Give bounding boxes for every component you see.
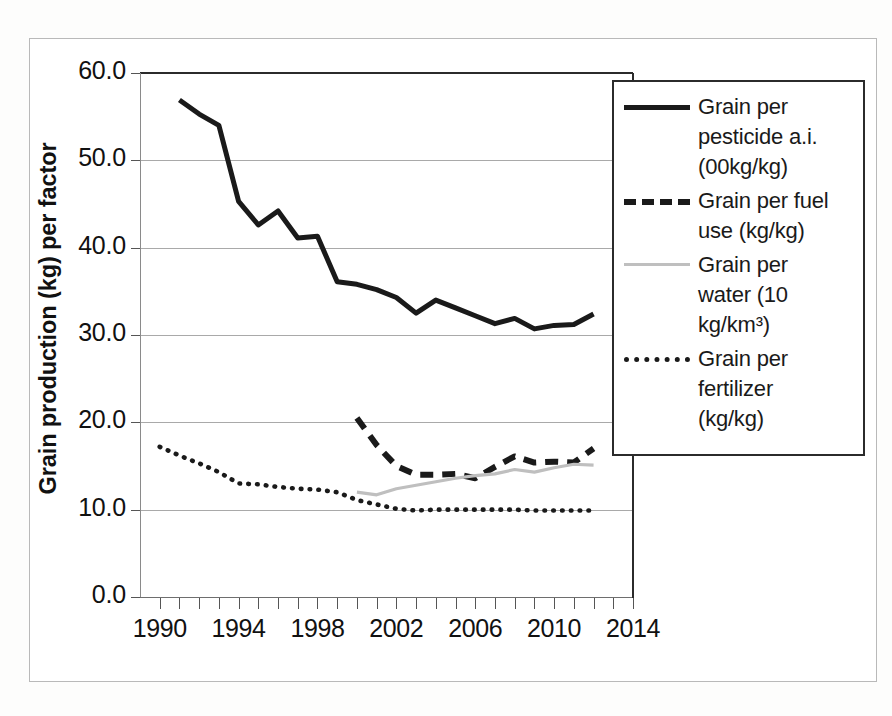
x-axis-tick-label: 2014: [593, 614, 673, 643]
gridline: [140, 248, 633, 249]
figure-root: 60.050.040.030.020.010.00.0 Grain produc…: [0, 0, 892, 716]
x-axis-tick-mark: [377, 598, 378, 609]
x-axis-tick-mark: [613, 598, 614, 609]
y-axis-tick-mark: [131, 160, 140, 161]
gridline: [140, 160, 633, 161]
x-axis-tick-label: 2006: [435, 614, 515, 643]
x-axis-tick-mark: [554, 598, 555, 609]
x-axis-tick-label: 1990: [120, 614, 200, 643]
x-axis-tick-mark: [633, 598, 634, 609]
gridline: [140, 510, 633, 511]
x-axis-tick-label: 2010: [514, 614, 594, 643]
x-axis-tick-mark: [258, 598, 259, 609]
gridline: [140, 335, 633, 336]
gridline: [140, 422, 633, 423]
dotted-line-icon: [620, 344, 692, 372]
x-axis-tick-mark: [179, 598, 180, 609]
y-axis-tick-mark: [131, 597, 140, 598]
y-axis-tick-mark: [131, 422, 140, 423]
x-axis-tick-mark: [199, 598, 200, 609]
legend: Grain per pesticide a.i. (00kg/kg)Grain …: [612, 80, 865, 456]
y-axis-line: [140, 73, 141, 597]
y-axis-tick-label: 0.0: [54, 580, 126, 609]
grey-line-icon: [620, 250, 692, 278]
y-axis-tick-mark: [131, 73, 140, 74]
y-axis-tick-label: 50.0: [54, 143, 126, 172]
legend-item: Grain per water (10 kg/km³): [620, 250, 857, 340]
x-axis-tick-mark: [574, 598, 575, 609]
x-axis-tick-label: 2002: [356, 614, 436, 643]
x-axis-tick-mark: [436, 598, 437, 609]
x-axis-tick-mark: [515, 598, 516, 609]
x-axis-tick-mark: [298, 598, 299, 609]
x-axis-tick-mark: [416, 598, 417, 609]
legend-item-label: Grain per fuel use (kg/kg): [698, 186, 829, 246]
x-axis-tick-mark: [317, 598, 318, 609]
x-axis-tick-mark: [219, 598, 220, 609]
x-axis-tick-mark: [475, 598, 476, 609]
x-axis-tick-label: 1994: [199, 614, 279, 643]
x-axis-tick-mark: [357, 598, 358, 609]
dashed-line-icon: [620, 186, 692, 214]
x-axis-tick-mark: [278, 598, 279, 609]
y-axis-tick-label: 40.0: [54, 231, 126, 260]
y-axis-tick-mark: [131, 510, 140, 511]
gridline: [140, 597, 633, 598]
y-axis-tick-labels: 60.050.040.030.020.010.00.0: [52, 0, 126, 716]
legend-item: Grain per fertilizer (kg/kg): [620, 344, 857, 434]
solid-line-icon: [620, 92, 692, 120]
x-axis-tick-label: 1998: [277, 614, 357, 643]
legend-item-label: Grain per pesticide a.i. (00kg/kg): [698, 92, 818, 182]
y-axis-tick-label: 10.0: [54, 493, 126, 522]
y-axis-title: Grain production (kg) per factor: [35, 59, 62, 579]
x-axis-tick-mark: [594, 598, 595, 609]
x-axis-tick-mark: [456, 598, 457, 609]
x-axis-tick-mark: [239, 598, 240, 609]
y-axis-tick-mark: [131, 335, 140, 336]
legend-item: Grain per pesticide a.i. (00kg/kg): [620, 92, 857, 182]
y-axis-tick-mark: [131, 248, 140, 249]
y-axis-tick-label: 30.0: [54, 318, 126, 347]
x-axis-tick-mark: [534, 598, 535, 609]
legend-item-label: Grain per water (10 kg/km³): [698, 250, 788, 340]
x-axis-tick-mark: [160, 598, 161, 609]
x-axis-tick-mark: [337, 598, 338, 609]
gridline: [140, 72, 633, 74]
y-axis-tick-label: 20.0: [54, 405, 126, 434]
x-axis-tick-mark: [396, 598, 397, 609]
legend-item: Grain per fuel use (kg/kg): [620, 186, 857, 246]
y-axis-tick-label: 60.0: [54, 56, 126, 85]
legend-item-label: Grain per fertilizer (kg/kg): [698, 344, 788, 434]
x-axis-tick-mark: [495, 598, 496, 609]
